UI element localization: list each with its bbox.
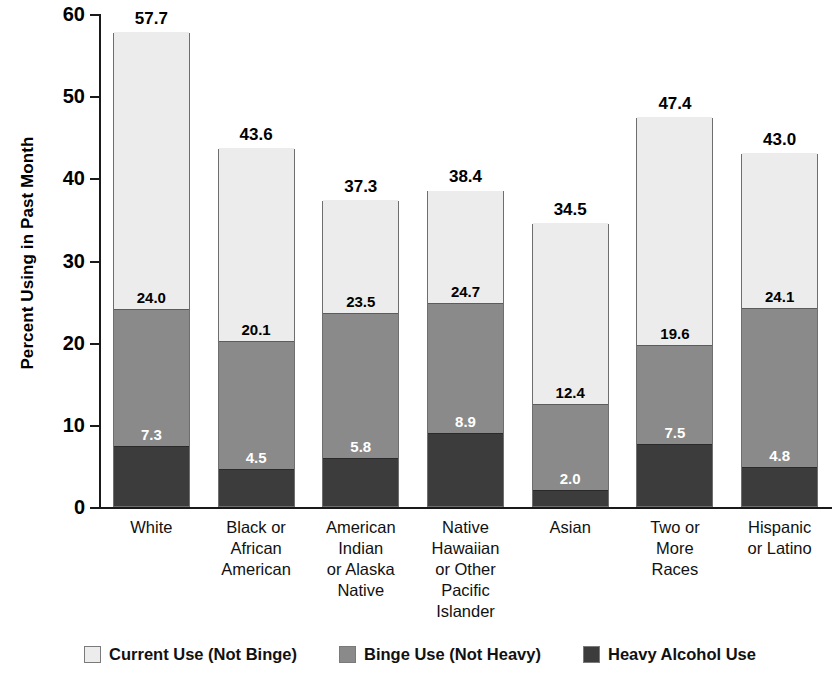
legend-item[interactable]: Heavy Alcohol Use bbox=[583, 645, 756, 664]
bar-total-label: 38.4 bbox=[405, 168, 526, 186]
bar-group[interactable]: 23.55.837.3 bbox=[322, 201, 399, 507]
category-label-line: Indian bbox=[308, 538, 413, 559]
segment-value-label: 7.5 bbox=[637, 425, 712, 441]
y-tick-mark bbox=[90, 343, 99, 345]
segment-value-label: 24.1 bbox=[742, 289, 817, 305]
stacked-bar-chart: Percent Using in Past Month 010203040506… bbox=[0, 0, 840, 681]
category-label-line: Islander bbox=[413, 601, 518, 622]
bar-total-label: 43.0 bbox=[719, 131, 840, 149]
stacked-bar[interactable]: 19.67.5 bbox=[636, 118, 713, 507]
category-label-line: Hawaiian bbox=[413, 538, 518, 559]
y-tick-label: 60 bbox=[63, 3, 85, 26]
segment-current-use[interactable]: 24.7 bbox=[428, 191, 503, 304]
y-tick-mark bbox=[90, 425, 99, 427]
segment-value-label: 4.8 bbox=[742, 448, 817, 464]
category-label: NativeHawaiianor OtherPacificIslander bbox=[413, 517, 518, 622]
legend-label: Heavy Alcohol Use bbox=[608, 645, 756, 664]
segment-heavy-alcohol-use[interactable] bbox=[428, 433, 503, 506]
legend-swatch-icon bbox=[84, 646, 101, 663]
legend-label: Current Use (Not Binge) bbox=[109, 645, 297, 664]
stacked-bar[interactable]: 24.14.8 bbox=[741, 154, 818, 507]
segment-value-label: 2.0 bbox=[533, 471, 608, 487]
bar-group[interactable]: 24.14.843.0 bbox=[741, 154, 818, 507]
stacked-bar[interactable]: 12.42.0 bbox=[532, 224, 609, 507]
segment-binge-use[interactable]: 8.9 bbox=[428, 303, 503, 433]
chart-legend: Current Use (Not Binge)Binge Use (Not He… bbox=[0, 645, 840, 664]
bar-total-label: 43.6 bbox=[196, 126, 317, 144]
category-label-line: Two or bbox=[623, 517, 728, 538]
category-label: Asian bbox=[518, 517, 623, 538]
bar-group[interactable]: 12.42.034.5 bbox=[532, 224, 609, 507]
category-label-line: Black or bbox=[204, 517, 309, 538]
category-label-line: American bbox=[204, 559, 309, 580]
y-tick-label: 0 bbox=[74, 496, 85, 519]
legend-item[interactable]: Binge Use (Not Heavy) bbox=[339, 645, 541, 664]
category-label-line: American bbox=[308, 517, 413, 538]
stacked-bar[interactable]: 23.55.8 bbox=[322, 201, 399, 507]
segment-binge-use[interactable]: 2.0 bbox=[533, 404, 608, 489]
legend-item[interactable]: Current Use (Not Binge) bbox=[84, 645, 297, 664]
category-label-line: Native bbox=[308, 580, 413, 601]
category-label-line: African bbox=[204, 538, 309, 559]
x-axis-line bbox=[99, 507, 832, 509]
segment-value-label: 24.0 bbox=[114, 290, 189, 306]
category-label: Hispanicor Latino bbox=[727, 517, 832, 559]
bar-total-label: 37.3 bbox=[300, 178, 421, 196]
segment-current-use[interactable]: 12.4 bbox=[533, 223, 608, 405]
stacked-bar[interactable]: 24.07.3 bbox=[113, 33, 190, 507]
bar-group[interactable]: 24.78.938.4 bbox=[427, 191, 504, 507]
y-tick-mark bbox=[90, 178, 99, 180]
segment-heavy-alcohol-use[interactable] bbox=[323, 458, 398, 506]
segment-binge-use[interactable]: 4.8 bbox=[742, 308, 817, 467]
legend-label: Binge Use (Not Heavy) bbox=[364, 645, 541, 664]
segment-current-use[interactable]: 20.1 bbox=[219, 148, 294, 341]
segment-binge-use[interactable]: 5.8 bbox=[323, 313, 398, 458]
legend-swatch-icon bbox=[583, 646, 600, 663]
category-label-line: Pacific bbox=[413, 580, 518, 601]
segment-heavy-alcohol-use[interactable] bbox=[114, 446, 189, 506]
segment-heavy-alcohol-use[interactable] bbox=[533, 490, 608, 506]
stacked-bar[interactable]: 20.14.5 bbox=[218, 149, 295, 507]
segment-heavy-alcohol-use[interactable] bbox=[219, 469, 294, 506]
segment-value-label: 4.5 bbox=[219, 450, 294, 466]
plot-area: 0102030405060 24.07.357.720.14.543.623.5… bbox=[99, 14, 832, 509]
bar-total-label: 47.4 bbox=[614, 95, 735, 113]
category-label-line: or Alaska bbox=[308, 559, 413, 580]
bar-group[interactable]: 24.07.357.7 bbox=[113, 33, 190, 507]
y-tick-mark bbox=[90, 96, 99, 98]
bar-group[interactable]: 20.14.543.6 bbox=[218, 149, 295, 507]
segment-current-use[interactable]: 24.1 bbox=[742, 153, 817, 308]
segment-binge-use[interactable]: 7.3 bbox=[114, 309, 189, 446]
bar-group[interactable]: 19.67.547.4 bbox=[636, 118, 713, 507]
category-label-line: Races bbox=[623, 559, 728, 580]
segment-value-label: 23.5 bbox=[323, 294, 398, 310]
segment-current-use[interactable]: 23.5 bbox=[323, 200, 398, 313]
segment-value-label: 20.1 bbox=[219, 322, 294, 338]
segment-binge-use[interactable]: 4.5 bbox=[219, 341, 294, 469]
segment-current-use[interactable]: 24.0 bbox=[114, 32, 189, 309]
segment-value-label: 24.7 bbox=[428, 284, 503, 300]
segment-current-use[interactable]: 19.6 bbox=[637, 117, 712, 345]
segment-heavy-alcohol-use[interactable] bbox=[742, 467, 817, 506]
y-tick-mark bbox=[90, 261, 99, 263]
bar-total-label: 34.5 bbox=[510, 201, 631, 219]
segment-value-label: 19.6 bbox=[637, 326, 712, 342]
category-label: Black orAfricanAmerican bbox=[204, 517, 309, 580]
y-axis-title: Percent Using in Past Month bbox=[18, 88, 38, 418]
segment-binge-use[interactable]: 7.5 bbox=[637, 345, 712, 444]
category-label-line: Native bbox=[413, 517, 518, 538]
category-label-line: Hispanic bbox=[727, 517, 832, 538]
stacked-bar[interactable]: 24.78.9 bbox=[427, 191, 504, 507]
y-tick-label: 30 bbox=[63, 250, 85, 273]
y-tick-mark bbox=[90, 507, 99, 509]
y-tick-label: 40 bbox=[63, 167, 85, 190]
bar-total-label: 57.7 bbox=[91, 10, 212, 28]
segment-heavy-alcohol-use[interactable] bbox=[637, 444, 712, 506]
segment-value-label: 7.3 bbox=[114, 427, 189, 443]
category-label: Two orMoreRaces bbox=[623, 517, 728, 580]
y-tick-label: 50 bbox=[63, 85, 85, 108]
y-tick-label: 10 bbox=[63, 414, 85, 437]
category-label-line: More bbox=[623, 538, 728, 559]
y-tick-label: 20 bbox=[63, 332, 85, 355]
category-label-line: or Latino bbox=[727, 538, 832, 559]
